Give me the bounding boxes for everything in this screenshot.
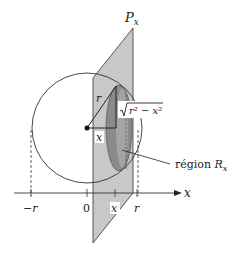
center-x-label: x — [96, 131, 103, 144]
center-dot — [85, 126, 90, 131]
radius-label: r — [96, 92, 102, 105]
x-axis-arrow — [174, 190, 182, 196]
region-label: région Rx — [175, 158, 228, 173]
tick-label-neg-r: −r — [23, 202, 38, 215]
cross-section-diagram: Px r r² − x² x région Rx x −r 0 x r — [0, 0, 235, 256]
tick-label-zero: 0 — [83, 202, 90, 215]
axis-label-x: x — [184, 186, 191, 200]
tick-label-x: x — [111, 202, 118, 215]
tick-label-r: r — [134, 202, 140, 215]
plane-label: Px — [124, 10, 139, 27]
sqrt-expr: r² − x² — [129, 105, 162, 116]
